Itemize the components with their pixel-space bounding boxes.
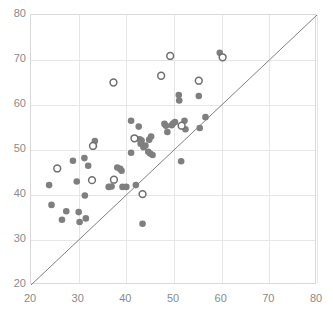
data-point-filled: [172, 119, 179, 126]
y-tick-80: 80: [2, 8, 26, 19]
x-tick-40: 40: [110, 293, 140, 304]
data-point-filled: [63, 208, 70, 215]
y-tick-20: 20: [2, 278, 26, 289]
x-tick-30: 30: [63, 293, 93, 304]
scatter-plot-figure: 20304050607080 20304050607080: [0, 0, 333, 318]
data-layer: [31, 15, 317, 285]
data-point-open: [110, 79, 117, 86]
data-point-filled: [176, 97, 183, 104]
data-point-filled: [59, 216, 66, 223]
y-tick-30: 30: [2, 233, 26, 244]
data-point-filled: [128, 117, 135, 124]
y-tick-40: 40: [2, 188, 26, 199]
data-point-filled: [164, 129, 171, 136]
gridline-vertical-80: [317, 15, 318, 283]
data-point-filled: [46, 182, 53, 189]
data-point-filled: [148, 133, 155, 140]
plot-area: [30, 14, 316, 284]
data-point-filled: [133, 182, 140, 189]
y-tick-60: 60: [2, 98, 26, 109]
y-tick-50: 50: [2, 143, 26, 154]
data-point-filled: [75, 209, 82, 216]
x-tick-80: 80: [301, 293, 331, 304]
data-point-open: [111, 176, 118, 183]
data-point-filled: [139, 221, 146, 228]
data-point-open: [167, 53, 174, 60]
data-point-open: [178, 122, 185, 129]
data-point-filled: [73, 178, 80, 185]
data-point-filled: [82, 192, 89, 199]
data-point-filled: [108, 183, 115, 190]
x-tick-20: 20: [15, 293, 45, 304]
data-point-filled: [48, 202, 55, 209]
data-point-filled: [135, 123, 142, 130]
data-point-filled: [195, 93, 202, 100]
data-point-filled: [149, 152, 156, 159]
data-point-open: [158, 72, 165, 79]
data-point-filled: [202, 114, 209, 121]
data-point-filled: [123, 184, 130, 191]
data-point-filled: [76, 219, 83, 226]
data-point-filled: [81, 155, 88, 162]
data-point-filled: [196, 125, 203, 132]
data-point-open: [90, 143, 97, 150]
data-point-open: [131, 135, 138, 142]
data-point-open: [89, 177, 96, 184]
data-point-filled: [118, 167, 125, 174]
y-tick-70: 70: [2, 53, 26, 64]
data-point-open: [195, 77, 202, 84]
data-point-filled: [142, 142, 149, 149]
data-point-filled: [70, 158, 77, 165]
data-point-open: [219, 54, 226, 61]
data-point-open: [54, 165, 61, 172]
x-tick-70: 70: [253, 293, 283, 304]
data-point-filled: [128, 149, 135, 156]
data-point-filled: [163, 122, 170, 129]
data-point-filled: [178, 158, 185, 165]
data-point-filled: [85, 162, 92, 169]
data-point-open: [139, 191, 146, 198]
data-point-filled: [83, 215, 90, 222]
x-tick-50: 50: [158, 293, 188, 304]
x-tick-60: 60: [206, 293, 236, 304]
